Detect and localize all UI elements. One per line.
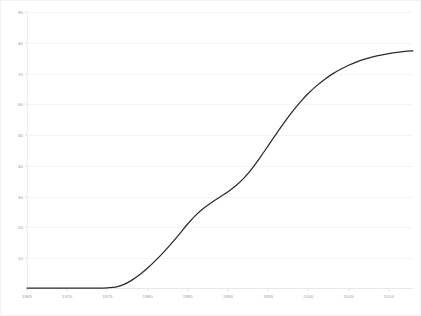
x-tick-label: 2005 [344,294,354,299]
x-tick-mark [27,289,28,291]
series-line-chart [27,12,413,289]
y-tick-label: 30 [18,194,23,199]
x-tick-mark [187,289,188,291]
x-tick-label: 1975 [102,294,112,299]
y-tick-label: 70 [18,71,23,76]
y-tick-label: 20 [18,225,23,230]
chart-card: 102030405060708090 196519701975198019851… [0,0,421,316]
y-tick-label: 50 [18,133,23,138]
x-tick-mark [268,289,269,291]
x-tick-label: 1985 [183,294,193,299]
x-tick-mark [388,289,389,291]
y-tick-label: 40 [18,163,23,168]
x-tick-label: 1965 [22,294,32,299]
x-tick-mark [228,289,229,291]
x-tick-mark [348,289,349,291]
series-line-path [27,51,413,288]
x-tick-label: 1995 [263,294,273,299]
x-tick-mark [147,289,148,291]
x-tick-label: 2000 [303,294,313,299]
x-tick-mark [308,289,309,291]
x-tick-mark [67,289,68,291]
x-tick-label: 2010 [384,294,394,299]
x-tick-mark [107,289,108,291]
plot-area: 102030405060708090 196519701975198019851… [27,12,413,289]
y-tick-label: 10 [18,256,23,261]
y-tick-label: 60 [18,102,23,107]
x-tick-label: 1990 [223,294,233,299]
x-tick-label: 1970 [62,294,72,299]
y-tick-label: 80 [18,40,23,45]
y-tick-label: 90 [18,10,23,15]
x-tick-label: 1980 [143,294,153,299]
